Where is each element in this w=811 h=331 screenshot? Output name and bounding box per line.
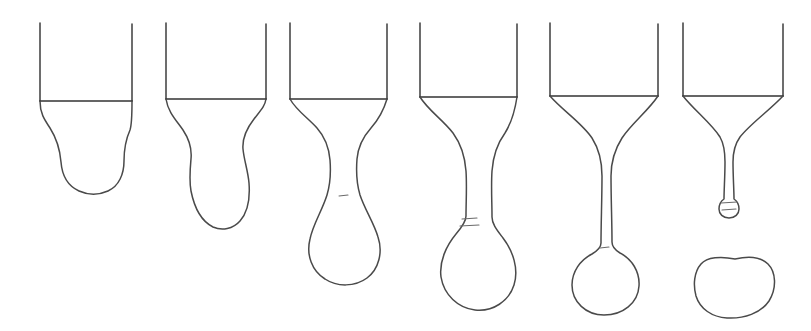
stage-6-tip-tick-lower — [722, 209, 736, 210]
stage-4-liquid-outline — [420, 97, 517, 310]
stage-4-neck-tick-upper — [462, 218, 477, 219]
stage-3-liquid-outline — [290, 99, 387, 285]
stage-6-detached-drop — [694, 257, 774, 318]
stage-6-group — [683, 23, 783, 318]
stage-3-neck-tick — [339, 195, 348, 196]
stage-3-group — [290, 23, 387, 285]
stage-2-liquid-outline — [166, 99, 266, 229]
stage-2-group — [166, 23, 266, 229]
pendant-drop-figure — [0, 0, 811, 331]
stage-6-retracted-thread-outline — [683, 96, 783, 218]
stage-1-liquid-outline — [40, 101, 132, 194]
stage-1-group — [40, 23, 132, 194]
drop-sequence-diagram — [0, 0, 811, 331]
stage-5-group — [550, 23, 658, 315]
stage-6-tip-tick-upper — [721, 202, 737, 203]
stage-5-neck-tick — [600, 247, 609, 248]
stage-5-liquid-outline — [550, 96, 658, 315]
stage-4-group — [420, 23, 517, 310]
